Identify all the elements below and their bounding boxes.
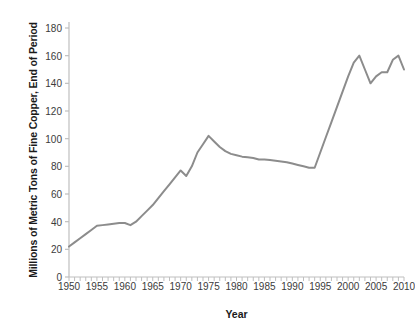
data-series-lines	[69, 56, 404, 247]
axis-lines	[69, 22, 404, 277]
series-line	[69, 56, 404, 247]
